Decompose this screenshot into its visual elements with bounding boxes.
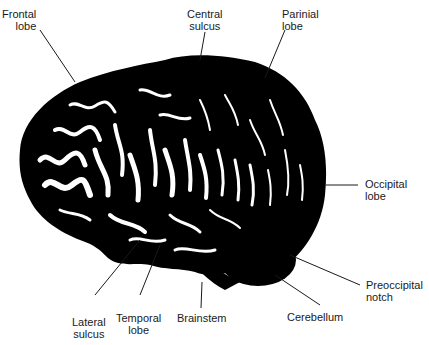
label-cerebellum: Cerebellum xyxy=(287,311,343,323)
label-text: Parinial xyxy=(282,8,319,20)
label-brainstem: Brainstem xyxy=(177,312,227,324)
label-text: Frontal xyxy=(2,8,36,20)
label-text: Central xyxy=(187,8,222,20)
brain-illustration xyxy=(0,0,429,345)
label-text: notch xyxy=(366,291,423,303)
label-temporal-lobe: Temporal lobe xyxy=(116,312,161,336)
label-text: lobe xyxy=(365,190,407,202)
label-text: Cerebellum xyxy=(287,311,343,323)
label-text: Preoccipital xyxy=(366,279,423,291)
label-text: Lateral xyxy=(72,316,106,328)
label-frontal-lobe: Frontal lobe xyxy=(2,8,36,32)
label-text: Temporal xyxy=(116,312,161,324)
label-lateral-sulcus: Lateral sulcus xyxy=(72,316,106,340)
label-occipital-lobe: Occipital lobe xyxy=(365,178,407,202)
label-text: Occipital xyxy=(365,178,407,190)
label-text: sulcus xyxy=(187,20,222,32)
label-parinial-lobe: Parinial lobe xyxy=(282,8,319,32)
label-text: lobe xyxy=(2,20,36,32)
label-central-sulcus: Central sulcus xyxy=(187,8,222,32)
label-preoccipital-notch: Preoccipital notch xyxy=(366,279,423,303)
label-text: lobe xyxy=(116,324,161,336)
label-text: lobe xyxy=(282,20,319,32)
label-text: Brainstem xyxy=(177,312,227,324)
label-text: sulcus xyxy=(72,328,106,340)
